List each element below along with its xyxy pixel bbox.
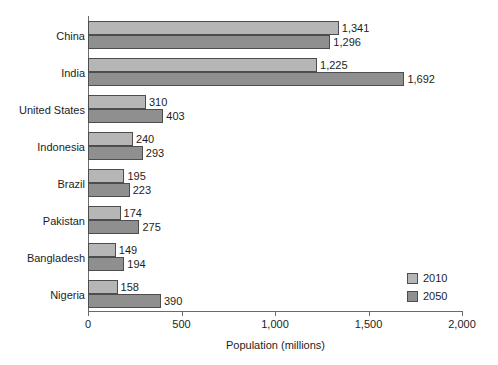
bar: [88, 35, 330, 49]
bar: [88, 72, 404, 86]
bar-value-label: 240: [136, 132, 154, 146]
category-label: Brazil: [1, 178, 85, 190]
legend-label: 2010: [423, 272, 447, 284]
x-tick: [275, 311, 276, 316]
legend-item: 2050: [407, 287, 447, 305]
chart-legend: 20102050: [407, 269, 447, 305]
legend-item: 2010: [407, 269, 447, 287]
bar-value-label: 1,341: [342, 21, 370, 35]
bar-value-label: 149: [119, 243, 137, 257]
bar: [88, 294, 161, 308]
x-tick-label: 0: [85, 318, 91, 330]
bar-value-label: 310: [149, 95, 167, 109]
category-label: China: [1, 30, 85, 42]
x-tick: [88, 311, 89, 316]
bar: [88, 58, 317, 72]
category-label: Pakistan: [1, 215, 85, 227]
bar-value-label: 195: [127, 169, 145, 183]
x-tick-label: 1,500: [355, 318, 383, 330]
category-label: Bangladesh: [1, 252, 85, 264]
category-label: Nigeria: [1, 289, 85, 301]
bar: [88, 95, 146, 109]
bar: [88, 206, 121, 220]
legend-label: 2050: [423, 290, 447, 302]
legend-swatch-icon: [407, 273, 418, 284]
bar: [88, 257, 124, 271]
plot-area: 1,3411,2961,2251,69231040324029319522317…: [88, 16, 462, 311]
bar-value-label: 293: [146, 146, 164, 160]
category-label: United States: [1, 104, 85, 116]
bar: [88, 132, 133, 146]
legend-swatch-icon: [407, 291, 418, 302]
bar-value-label: 1,225: [320, 58, 348, 72]
bar: [88, 183, 130, 197]
x-tick: [369, 311, 370, 316]
bar-value-label: 403: [166, 109, 184, 123]
x-tick: [462, 311, 463, 316]
bar-value-label: 158: [121, 280, 139, 294]
x-tick-label: 500: [172, 318, 190, 330]
bar: [88, 169, 124, 183]
bar: [88, 243, 116, 257]
bar-value-label: 194: [127, 257, 145, 271]
bar: [88, 146, 143, 160]
x-tick: [182, 311, 183, 316]
bar: [88, 21, 339, 35]
bar-value-label: 223: [133, 183, 151, 197]
bar-value-label: 390: [164, 294, 182, 308]
bar-value-label: 174: [124, 206, 142, 220]
bar-value-label: 1,692: [407, 72, 435, 86]
bar-value-label: 1,296: [333, 35, 361, 49]
bar-chart-population: 05001,0001,5002,000 ChinaIndiaUnited Sta…: [0, 0, 498, 365]
bar-value-label: 275: [142, 220, 160, 234]
category-label: Indonesia: [1, 141, 85, 153]
bar: [88, 280, 118, 294]
x-tick-label: 2,000: [448, 318, 476, 330]
x-tick-label: 1,000: [261, 318, 289, 330]
bar: [88, 220, 139, 234]
category-label: India: [1, 67, 85, 79]
x-axis-title: Population (millions): [88, 339, 463, 351]
bar: [88, 109, 163, 123]
